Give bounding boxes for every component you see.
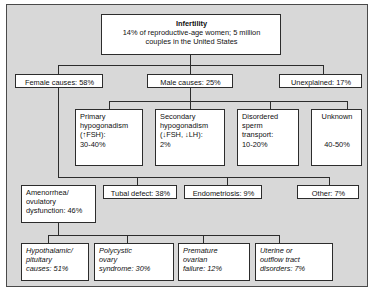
node-uterine-l3: disorders: 7% <box>260 264 305 273</box>
node-polycystic-ovary-syndrome: Polycystic ovary syndrome: 30% <box>94 243 174 281</box>
node-disordered-sperm-transport-l3: transport: <box>242 130 273 139</box>
node-polycystic-l1: Polycystic <box>99 246 132 255</box>
node-hypothalamic-l3: causes: 51% <box>26 264 68 273</box>
node-disordered-sperm-transport: Disordered sperm transport: 10-20% <box>237 109 299 166</box>
node-uterine-outflow-tract-disorders: Uterine or outflow tract disorders: 7% <box>255 243 333 281</box>
node-male-causes: Male causes: 25% <box>147 74 233 88</box>
node-primary-hypogonadism-l3: (↑FSH): <box>80 130 105 139</box>
node-infertility: Infertility 14% of reproductive-age wome… <box>101 14 281 55</box>
node-polycystic-l2: ovary <box>99 255 117 264</box>
node-male-causes-label: Male causes: 25% <box>160 78 220 87</box>
node-secondary-hypogonadism-l1: Secondary <box>160 112 195 121</box>
node-endometriosis: Endometriosis: 9% <box>184 185 262 199</box>
node-premature-l1: Premature <box>183 246 218 255</box>
node-uterine-l1: Uterine or <box>260 246 292 255</box>
node-primary-hypogonadism-l2: hypogonadism <box>80 121 139 130</box>
connector-amenorrhea-bus <box>48 235 280 236</box>
node-primary-hypogonadism-l4: 30-40% <box>80 140 105 149</box>
node-unexplained-label: Unexplained: 17% <box>291 78 351 87</box>
node-secondary-hypogonadism-l2: hypogonadism <box>160 121 221 130</box>
node-premature-ovarian-failure: Premature ovarian failure: 12% <box>178 243 250 281</box>
diagram-canvas: Infertility 14% of reproductive-age wome… <box>0 0 376 293</box>
node-other-label: Other: 7% <box>312 189 345 198</box>
node-tubal-defect: Tubal defect: 38% <box>103 185 177 199</box>
node-premature-l3: failure: 12% <box>183 264 222 273</box>
node-infertility-heading: Infertility <box>106 19 277 28</box>
node-female-causes-label: Female causes: 58% <box>25 78 94 87</box>
connector-female-bus <box>58 177 330 178</box>
node-amenorrhea-l3: dysfunction: 46% <box>26 206 82 215</box>
node-female-causes: Female causes: 58% <box>15 74 103 88</box>
node-infertility-line1: 14% of reproductive-age women; 5 million <box>123 28 261 37</box>
node-unknown-l1: Unknown <box>322 112 353 121</box>
node-hypothalamic-pituitary-causes: Hypothalamic/ pituitary causes: 51% <box>21 243 89 281</box>
node-disordered-sperm-transport-l4: 10-20% <box>242 140 267 149</box>
node-amenorrhea-l1: Amenorrhea/ <box>26 188 69 197</box>
connector-male-bus <box>109 101 348 102</box>
connector-male-stem <box>190 88 191 102</box>
node-primary-hypogonadism-l1: Primary <box>80 112 105 121</box>
node-other: Other: 7% <box>297 185 359 199</box>
node-disordered-sperm-transport-l1: Disordered <box>242 112 278 121</box>
node-tubal-defect-label: Tubal defect: 38% <box>111 189 170 198</box>
node-endometriosis-label: Endometriosis: 9% <box>193 189 255 198</box>
node-unexplained: Unexplained: 17% <box>279 74 362 88</box>
node-uterine-l2: outflow tract <box>260 255 300 264</box>
node-amenorrhea-ovulatory-dysfunction: Amenorrhea/ ovulatory dysfunction: 46% <box>21 185 96 223</box>
node-infertility-line2: couples in the United States <box>145 37 237 46</box>
node-hypothalamic-l2: pituitary <box>26 255 52 264</box>
node-secondary-hypogonadism-l3: (↓FSH, ↓LH): <box>160 130 203 139</box>
node-secondary-hypogonadism: Secondary hypogonadism (↓FSH, ↓LH): 2% <box>155 109 225 166</box>
node-premature-l2: ovarian <box>183 255 207 264</box>
node-disordered-sperm-transport-l2: sperm <box>242 121 263 130</box>
node-unknown-l4: 40-50% <box>324 140 349 149</box>
diagram-panel: Infertility 14% of reproductive-age wome… <box>6 4 368 287</box>
node-unknown: Unknown 40-50% <box>311 109 362 166</box>
node-primary-hypogonadism: Primary hypogonadism (↑FSH): 30-40% <box>75 109 143 166</box>
node-hypothalamic-l1: Hypothalamic/ <box>26 246 73 255</box>
node-amenorrhea-l2: ovulatory <box>26 197 92 206</box>
node-polycystic-l3: syndrome: 30% <box>99 264 150 273</box>
node-secondary-hypogonadism-l4: 2% <box>160 140 171 149</box>
connector-female-stem <box>58 88 59 178</box>
